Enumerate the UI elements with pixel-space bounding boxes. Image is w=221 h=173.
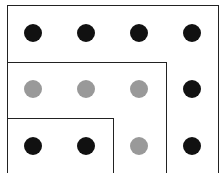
- gray-dot: [130, 80, 148, 98]
- black-dot: [183, 80, 201, 98]
- black-dot: [77, 137, 95, 155]
- black-dot: [183, 137, 201, 155]
- black-dot: [24, 137, 42, 155]
- black-dot: [130, 24, 148, 42]
- gray-dot: [24, 80, 42, 98]
- gray-dot: [130, 137, 148, 155]
- black-dot: [77, 24, 95, 42]
- gray-dot: [77, 80, 95, 98]
- black-dot: [24, 24, 42, 42]
- black-dot: [183, 24, 201, 42]
